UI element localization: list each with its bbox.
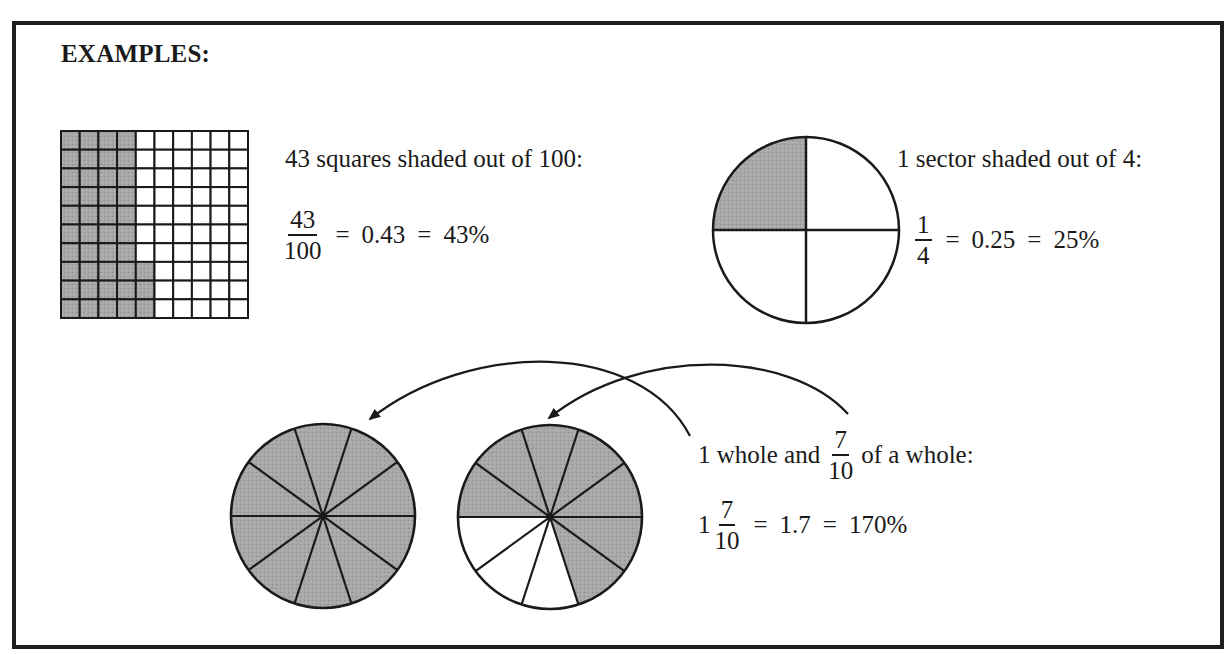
percent-value: 170% — [849, 511, 907, 539]
grid-cell-shaded — [61, 225, 80, 244]
grid-cell — [173, 168, 192, 187]
grid-cell — [155, 168, 174, 187]
decimal-value: 0.25 — [972, 226, 1016, 254]
grid-cell — [211, 243, 230, 262]
grid-cell-shaded — [61, 299, 80, 318]
grid-cell-shaded — [61, 281, 80, 300]
grid-cell-shaded — [61, 168, 80, 187]
grid-cell — [136, 168, 155, 187]
grid-cell — [173, 206, 192, 225]
equals-sign: = — [1027, 226, 1041, 254]
grid-cell — [155, 243, 174, 262]
mixed-description: 1 whole and 7 10 of a whole: — [698, 427, 974, 483]
grid-cell-shaded — [98, 168, 117, 187]
equals-sign: = — [754, 511, 768, 539]
grid-cell-shaded — [98, 187, 117, 206]
grid-cell — [136, 206, 155, 225]
arrow-to-tenths-circle — [549, 365, 848, 418]
grid-cell-shaded — [117, 187, 136, 206]
grid-cell-shaded — [98, 131, 117, 150]
grid-cell — [192, 281, 211, 300]
grid-cell-shaded — [117, 281, 136, 300]
grid-cell — [155, 187, 174, 206]
fraction-denominator: 100 — [284, 236, 322, 263]
grid-cell-shaded — [117, 225, 136, 244]
mixed-whole-number: 1 — [698, 511, 711, 539]
grid-cell — [192, 206, 211, 225]
grid-cell-shaded — [136, 299, 155, 318]
grid-cell — [192, 225, 211, 244]
equals-sign: = — [336, 221, 350, 249]
grid-cell-shaded — [80, 281, 99, 300]
quarter-equation: 1 4 = 0.25 = 25% — [913, 212, 1099, 268]
grid-cell — [211, 131, 230, 150]
seven-tenths-circle — [458, 425, 642, 609]
grid-cell — [192, 187, 211, 206]
percent-value: 43% — [443, 221, 489, 249]
grid-cell — [211, 187, 230, 206]
grid-cell-shaded — [80, 262, 99, 281]
grid-cell — [229, 299, 248, 318]
grid-cell-shaded — [61, 131, 80, 150]
decimal-value: 0.43 — [362, 221, 406, 249]
grid-cell-shaded — [80, 150, 99, 169]
quarter-description: 1 sector shaded out of 4: — [897, 145, 1142, 173]
grid-cell — [173, 131, 192, 150]
grid-cell — [211, 299, 230, 318]
fraction-numerator: 7 — [832, 427, 849, 456]
grid-cell — [136, 225, 155, 244]
grid-cell — [211, 150, 230, 169]
grid-cell — [173, 225, 192, 244]
grid-cell — [229, 225, 248, 244]
grid-cell — [173, 187, 192, 206]
fraction-numerator: 7 — [719, 497, 736, 526]
grid-cell-shaded — [98, 281, 117, 300]
fraction-denominator: 4 — [917, 241, 930, 268]
grid-cell-shaded — [61, 187, 80, 206]
grid-cell-shaded — [80, 299, 99, 318]
grid-cell — [229, 281, 248, 300]
grid-cell — [229, 243, 248, 262]
grid-cell — [173, 150, 192, 169]
quarter-fraction: 1 4 — [915, 212, 932, 268]
grid-cell — [211, 281, 230, 300]
grid-cell — [229, 187, 248, 206]
grid-cell-shaded — [80, 168, 99, 187]
fraction-numerator: 43 — [288, 207, 317, 236]
grid-cell — [136, 243, 155, 262]
grid-cell — [173, 262, 192, 281]
grid-cell — [192, 299, 211, 318]
grid-cell-shaded — [98, 243, 117, 262]
grid-equation: 43 100 = 0.43 = 43% — [282, 207, 489, 263]
grid-cell-shaded — [80, 206, 99, 225]
fraction-denominator: 10 — [715, 526, 740, 553]
grid-cell — [192, 150, 211, 169]
grid-cell — [155, 206, 174, 225]
quarter-circle — [713, 137, 899, 323]
grid-cell-shaded — [136, 262, 155, 281]
grid-cell-shaded — [61, 150, 80, 169]
description-prefix: 1 whole and — [698, 441, 820, 469]
grid-cell — [155, 262, 174, 281]
grid-cell-shaded — [61, 262, 80, 281]
equals-sign: = — [946, 226, 960, 254]
grid-cell-shaded — [80, 131, 99, 150]
fraction-numerator: 1 — [915, 212, 932, 241]
grid-cell — [136, 150, 155, 169]
mixed-fraction: 7 10 — [715, 497, 740, 553]
grid-cell-shaded — [98, 262, 117, 281]
fraction-denominator: 10 — [828, 456, 853, 483]
grid-cell-shaded — [61, 206, 80, 225]
grid-cell-shaded — [98, 150, 117, 169]
grid-cell — [136, 187, 155, 206]
grid-cell-shaded — [98, 206, 117, 225]
grid-cell — [136, 131, 155, 150]
grid-cell — [229, 206, 248, 225]
grid-cell-shaded — [117, 131, 136, 150]
description-suffix: of a whole: — [861, 441, 973, 469]
description-fraction: 7 10 — [828, 427, 853, 483]
mixed-equation: 1 7 10 = 1.7 = 170% — [698, 497, 907, 553]
equals-sign: = — [823, 511, 837, 539]
grid-cell-shaded — [61, 243, 80, 262]
grid-cell — [229, 168, 248, 187]
